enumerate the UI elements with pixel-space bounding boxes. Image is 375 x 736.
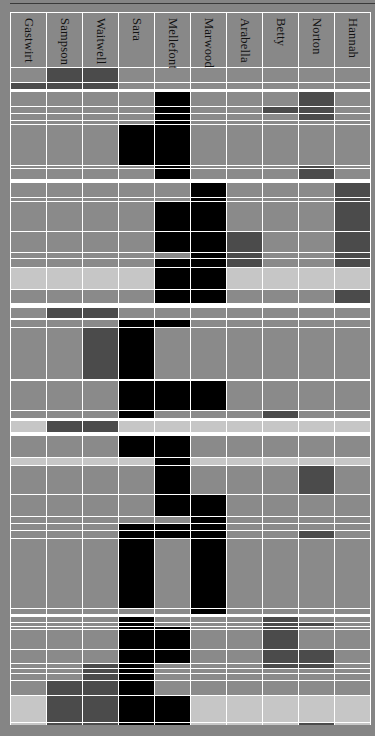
matrix-cell: [119, 268, 154, 289]
matrix-cell: [227, 166, 262, 168]
matrix-cell: [11, 92, 46, 106]
matrix-cell: [155, 125, 190, 165]
matrix-cell: [299, 83, 334, 89]
matrix-cell: [227, 183, 262, 197]
matrix-cell: [335, 202, 370, 231]
matrix-cell: [191, 232, 226, 252]
matrix-cell: [47, 290, 82, 303]
matrix-cell: [83, 495, 118, 516]
matrix-cell: [155, 524, 190, 530]
matrix-cell: [11, 617, 46, 622]
matrix-cell: [155, 232, 190, 252]
matrix-cell: [83, 290, 118, 303]
matrix-cell: [335, 664, 370, 668]
matrix-cell: [119, 421, 154, 432]
matrix-cell: [191, 539, 226, 608]
matrix-cell: [119, 166, 154, 168]
matrix-cell: [155, 268, 190, 289]
matrix-cell: [335, 669, 370, 673]
matrix-cell: [191, 650, 226, 663]
matrix-cell: [299, 617, 334, 622]
matrix-cell: [83, 183, 118, 197]
matrix-cell: [155, 609, 190, 614]
matrix-cell: [191, 696, 226, 722]
matrix-cell: [263, 83, 298, 89]
matrix-cell: [227, 198, 262, 201]
matrix-cell: [11, 623, 46, 626]
matrix-cell: [155, 650, 190, 663]
column-header-waitwell: Waitwell: [83, 13, 118, 67]
matrix-cell: [83, 524, 118, 530]
matrix-cell: [83, 166, 118, 168]
matrix-cell: [263, 669, 298, 673]
matrix-cell: [47, 458, 82, 465]
matrix-cell: [335, 121, 370, 124]
matrix-cell: [83, 320, 118, 327]
matrix-cell: [47, 517, 82, 523]
matrix-cell: [119, 320, 154, 327]
matrix-cell: [227, 169, 262, 179]
matrix-cell: [299, 308, 334, 318]
matrix-cell: [119, 328, 154, 379]
matrix-cell: [263, 328, 298, 379]
matrix-cell: [119, 517, 154, 523]
matrix-cell: [263, 517, 298, 523]
matrix-cell: [191, 320, 226, 327]
matrix-cell: [83, 107, 118, 113]
matrix-cell: [83, 114, 118, 120]
matrix-cell: [299, 381, 334, 410]
matrix-cell: [263, 183, 298, 197]
matrix-cell: [335, 114, 370, 120]
matrix-cell: [83, 669, 118, 673]
matrix-cell: [191, 466, 226, 494]
matrix-cell: [227, 268, 262, 289]
matrix-cell: [47, 232, 82, 252]
matrix-cell: [335, 623, 370, 626]
matrix-cell: [299, 517, 334, 523]
matrix-cell: [263, 531, 298, 538]
matrix-cell: [11, 290, 46, 303]
matrix-cell: [335, 696, 370, 722]
matrix-cell: [227, 617, 262, 622]
matrix-cell: [11, 664, 46, 668]
matrix-cell: [191, 68, 226, 82]
matrix-cell: [263, 696, 298, 722]
matrix-cell: [227, 232, 262, 252]
matrix-cell: [191, 627, 226, 629]
matrix-cell: [263, 308, 298, 318]
matrix-cell: [11, 436, 46, 457]
matrix-cell: [83, 411, 118, 418]
matrix-cell: [11, 259, 46, 267]
matrix-cell: [227, 125, 262, 165]
column-label: Mellefont: [165, 18, 180, 69]
matrix-cell: [335, 259, 370, 267]
matrix-cell: [191, 169, 226, 179]
matrix-cell: [263, 232, 298, 252]
matrix-cell: [155, 696, 190, 722]
matrix-cell: [263, 166, 298, 168]
matrix-cell: [155, 723, 190, 725]
matrix-cell: [335, 290, 370, 303]
matrix-cell: [299, 524, 334, 530]
matrix-cell: [47, 669, 82, 673]
matrix-cell: [299, 623, 334, 626]
matrix-cell: [47, 609, 82, 614]
matrix-cell: [119, 664, 154, 668]
matrix-cell: [191, 114, 226, 120]
matrix-cell: [191, 669, 226, 673]
matrix-cell: [299, 328, 334, 379]
matrix-cell: [227, 531, 262, 538]
matrix-cell: [299, 609, 334, 614]
matrix-cell: [83, 125, 118, 165]
matrix-cell: [263, 381, 298, 410]
matrix-cell: [47, 531, 82, 538]
matrix-cell: [119, 495, 154, 516]
matrix-cell: [83, 674, 118, 680]
matrix-cell: [47, 259, 82, 267]
matrix-cell: [47, 681, 82, 695]
matrix-cell: [299, 183, 334, 197]
matrix-cell: [119, 681, 154, 695]
matrix-cell: [335, 381, 370, 410]
matrix-cell: [47, 617, 82, 622]
matrix-cell: [11, 458, 46, 465]
